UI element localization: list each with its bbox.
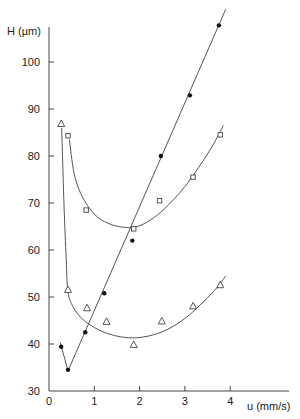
filled-circle-point: [102, 291, 106, 295]
open-triangle-point: [158, 317, 165, 324]
open-square-point: [218, 133, 222, 137]
open-square-point: [84, 208, 88, 212]
y-axis-title: H (µm): [7, 25, 41, 37]
filled-circle-point: [217, 23, 221, 27]
open-square-point: [66, 134, 70, 138]
open-square-point: [157, 198, 161, 202]
open-squares-fit-curve: [69, 125, 223, 227]
axes: H (µm) u (mm/s): [7, 25, 290, 412]
y-tick-label: 70: [28, 197, 40, 209]
filled-circle-point: [159, 154, 163, 158]
x-tick-label: 1: [91, 395, 97, 407]
open-triangle-point: [58, 120, 65, 127]
y-tick-label: 80: [28, 150, 40, 162]
y-tick-label: 40: [28, 338, 40, 350]
x-axis-title: u (mm/s): [247, 400, 290, 412]
y-tick-label: 50: [28, 291, 40, 303]
ticks: 0123430405060708090100: [22, 56, 234, 407]
open-triangle-point: [103, 318, 110, 325]
x-tick-label: 2: [137, 395, 143, 407]
open-square-point: [132, 227, 136, 231]
filled-circle-point: [83, 330, 87, 334]
x-tick-label: 4: [227, 395, 233, 407]
fit-curves: [60, 9, 225, 370]
filled-circle-point: [66, 368, 70, 372]
y-tick-label: 60: [28, 244, 40, 256]
open-triangle-point: [65, 286, 72, 293]
open-triangle-point: [190, 302, 197, 309]
x-tick-label: 3: [182, 395, 188, 407]
open-triangle-point: [84, 304, 91, 311]
y-tick-label: 90: [28, 103, 40, 115]
filled-circles-fit-curve: [60, 9, 225, 370]
filled-circle-point: [188, 93, 192, 97]
y-tick-label: 100: [22, 56, 40, 68]
y-tick-label: 30: [28, 385, 40, 397]
chart: H (µm) u (mm/s) 0123430405060708090100: [0, 0, 300, 419]
filled-circle-point: [59, 345, 63, 349]
open-triangle-point: [217, 281, 224, 288]
open-square-point: [191, 175, 195, 179]
open-triangle-point: [130, 341, 137, 348]
x-tick-label: 0: [46, 395, 52, 407]
filled-circle-point: [130, 238, 134, 242]
